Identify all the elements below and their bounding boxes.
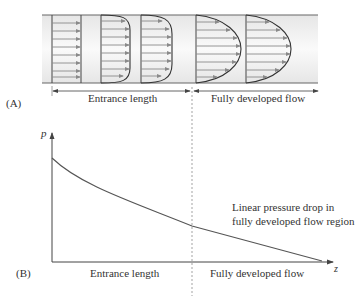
y-axis-label: p bbox=[41, 128, 47, 139]
fully-developed-label-b: Fully developed flow bbox=[210, 268, 304, 279]
entrance-length-label-a: Entrance length bbox=[88, 93, 157, 104]
entrance-length-label-b: Entrance length bbox=[90, 268, 159, 279]
fully-developed-label-a: Fully developed flow bbox=[211, 93, 305, 104]
panel-b-label: (B) bbox=[16, 268, 31, 279]
panel-a-label: (A) bbox=[6, 98, 21, 109]
x-axis-label: z bbox=[334, 264, 338, 274]
annotation-line-1: Linear pressure drop in bbox=[232, 202, 334, 213]
annotation-line-2: fully developed flow region bbox=[232, 216, 355, 227]
pressure-axes bbox=[52, 133, 333, 262]
